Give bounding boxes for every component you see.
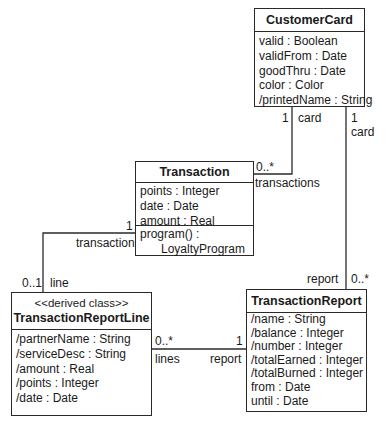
role-lines-report-lines: lines (155, 353, 180, 366)
class-transaction-report-line[interactable]: <<derived class>> TransactionReportLine … (11, 292, 152, 416)
attributes-section: valid : Boolean validFrom : Date goodThr… (255, 32, 364, 108)
multiplicity-card-transactions-card-end: 1 (282, 112, 289, 125)
attribute: date : Date (140, 199, 253, 214)
multiplicity-lines-report-report-end: 1 (236, 335, 243, 348)
attribute: validFrom : Date (259, 49, 364, 64)
attribute: points : Integer (140, 184, 253, 199)
class-name: TransactionReport (247, 290, 366, 313)
multiplicity-transaction-line-transaction-end: 1 (126, 220, 133, 233)
attribute: from : Date (251, 381, 366, 395)
role-card-report-card: card (351, 126, 374, 139)
multiplicity-lines-report-lines-end: 0..* (155, 335, 173, 348)
attribute: /amount : Real (16, 362, 151, 377)
attribute: /number : Integer (251, 340, 366, 354)
class-name: CustomerCard (255, 9, 364, 32)
role-transaction-line-line: line (50, 277, 69, 290)
class-name-text: TransactionReport (247, 290, 366, 312)
role-card-transactions-transactions: transactions (255, 177, 320, 190)
multiplicity-transaction-line-line-end: 0..1 (22, 277, 42, 290)
attribute: /totalEarned : Integer (251, 354, 366, 368)
multiplicity-card-report-card-end: 1 (351, 112, 358, 125)
class-name-text: Transaction (136, 162, 253, 182)
attribute: /date : Date (16, 391, 151, 406)
attribute: /partnerName : String (16, 332, 151, 347)
attributes-section: /name : String /balance : Integer /numbe… (247, 313, 366, 408)
class-name-text: CustomerCard (255, 9, 364, 31)
role-card-transactions-card: card (298, 112, 321, 125)
class-name: <<derived class>> TransactionReportLine (12, 293, 151, 330)
attribute: /balance : Integer (251, 327, 366, 341)
attributes-section: /partnerName : String /serviceDesc : Str… (12, 330, 151, 406)
class-name-text: TransactionReportLine (12, 310, 151, 327)
multiplicity-card-report-report-end: 0..* (351, 273, 369, 286)
role-card-report-report: report (307, 273, 338, 286)
attribute: color : Color (259, 78, 364, 93)
role-transaction-line-transaction: transaction (76, 237, 135, 250)
multiplicity-card-transactions-transactions-end: 0..* (256, 161, 274, 174)
class-customer-card[interactable]: CustomerCard valid : Boolean validFrom :… (254, 8, 365, 107)
attribute: until : Date (251, 395, 366, 409)
class-transaction-report[interactable]: TransactionReport /name : String /balanc… (246, 289, 367, 412)
stereotype: <<derived class>> (12, 296, 151, 310)
operations-section: program() : LoyaltyProgram (136, 225, 253, 257)
attribute: /points : Integer (16, 376, 151, 391)
attribute: goodThru : Date (259, 64, 364, 79)
attribute: valid : Boolean (259, 34, 364, 49)
role-lines-report-report: report (210, 353, 241, 366)
operation: program() : (140, 227, 253, 242)
attribute: /serviceDesc : String (16, 347, 151, 362)
attribute: /printedName : String (259, 93, 364, 108)
attributes-section: points : Integer date : Date amount : Re… (136, 183, 253, 225)
attribute: /totalBurned : Integer (251, 367, 366, 381)
attribute: /name : String (251, 313, 366, 327)
operation-return-type: LoyaltyProgram (140, 242, 253, 257)
class-transaction[interactable]: Transaction points : Integer date : Date… (135, 161, 254, 256)
class-name: Transaction (136, 162, 253, 183)
